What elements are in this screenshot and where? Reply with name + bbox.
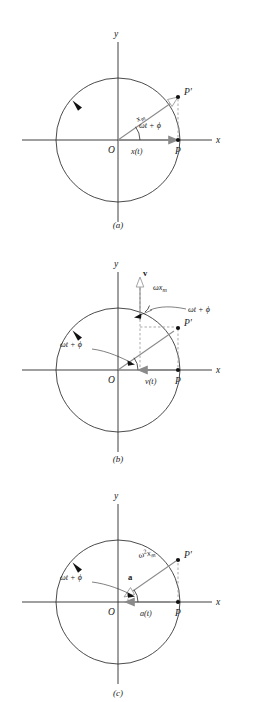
magnitude-sub: m [162,287,167,293]
phase-label-leader-left [92,349,132,363]
projection-label-arg: (t) [144,609,152,618]
x-axis-label: x [215,597,221,607]
x-axis-label: x [215,365,221,375]
point-p-prime-label: P' [183,550,193,560]
origin-label: O [108,607,115,617]
point-p-prime-label: P' [183,87,193,97]
phase-angle-arc [134,358,138,370]
origin-label: O [108,375,115,385]
panel-caption-b: (b) [113,454,124,464]
x-axis-label: x [215,135,221,145]
origin-label: O [108,145,115,155]
acceleration-vector [130,561,176,593]
projection-label: a(t) [140,609,152,618]
point-p-dot [176,138,180,142]
svg-text:ω2xm: ω2xm [137,547,156,561]
projection-arrowhead [126,599,134,606]
tangent-indicator-arrowhead [134,314,142,319]
rotation-direction-arrow [73,101,83,111]
point-p-dot [176,368,180,372]
panel-b-velocity: y x O P P' v ωxm ωt + ϕ ωt + ϕ v(t) (b) [0,232,253,468]
acceleration-vector-symbol: a [128,572,133,582]
point-p-prime-label: P' [183,318,193,328]
projection-label: v(t) [145,377,157,386]
y-axis-label: y [113,29,119,39]
rotation-direction-arrow [73,563,83,573]
point-p-label: P [174,376,181,386]
projection-label-arg: (t) [135,147,143,156]
panel-c-acceleration: y x O P P' a ω2xm ωt + ϕ a(t) (c) [0,466,253,702]
panel-a-displacement: y x O P P' xm ωt + ϕ x(t) (a) [0,0,253,235]
phase-angle-label: ωt + ϕ [139,121,162,130]
point-p-label: P [174,608,181,618]
magnitude-base: ωx [153,283,163,292]
point-p-prime-dot [176,558,180,562]
projection-label-arg: (t) [149,377,157,386]
point-p-prime-dot [176,95,180,99]
projection-arrowhead [169,137,177,144]
velocity-phase-arc [145,306,150,313]
point-p-prime-dot [176,326,180,330]
magnitude-label-group: ω2xm [137,547,156,561]
radius-vector [118,331,174,370]
magnitude-label: ωxm [153,283,167,293]
projection-arrowhead [139,367,147,374]
point-p-label: P [174,146,181,156]
phase-label-leader-left [92,582,132,595]
panel-caption-a: (a) [113,220,124,230]
phase-label-leader-right [150,307,186,310]
point-p-dot [176,600,180,604]
phase-angle-label-left: ωt + ϕ [60,340,83,349]
phase-angle-label-right: ωt + ϕ [188,305,211,314]
phase-angle-label-left: ωt + ϕ [60,573,83,582]
panel-caption-c: (c) [113,688,123,698]
y-axis-label: y [113,259,119,269]
y-axis-label: y [113,491,119,501]
shm-phasor-figure: y x O P P' xm ωt + ϕ x(t) (a) [0,0,253,702]
projection-label: x(t) [130,147,143,156]
velocity-vector-symbol: v [143,268,148,278]
velocity-vector-arrowhead [136,277,144,287]
